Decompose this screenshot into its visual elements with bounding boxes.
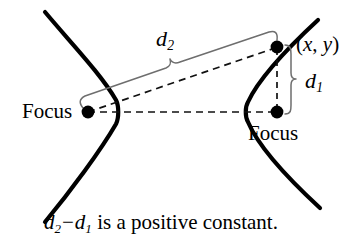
right-focus-dot xyxy=(271,106,284,119)
caption-term-d2: d2 xyxy=(44,210,61,234)
d1-label: d1 xyxy=(305,70,323,92)
hyperbola-figure: Focus Focus (x, y) d2 d1 d2−d1 is a posi… xyxy=(0,0,357,244)
point-on-curve-dot xyxy=(271,41,284,54)
d1-symbol: d xyxy=(305,68,316,93)
coordinate-comma: , xyxy=(312,32,323,56)
figure-caption: d2−d1 is a positive constant. xyxy=(44,212,278,233)
d1-subscript: 1 xyxy=(316,80,323,95)
caption-minus-operator: − xyxy=(61,210,75,234)
d2-label: d2 xyxy=(156,28,174,50)
coordinate-x: x xyxy=(303,32,312,56)
d2-symbol: d xyxy=(156,26,167,51)
caption-d2-symbol: d xyxy=(44,210,55,234)
left-focus-label: Focus xyxy=(22,101,72,122)
caption-tail-text: is a positive constant. xyxy=(92,210,278,234)
right-focus-label: Focus xyxy=(248,123,298,144)
paren-close: ) xyxy=(332,32,339,56)
point-coordinates-label: (x, y) xyxy=(296,34,339,55)
caption-d2-subscript: 2 xyxy=(55,221,62,236)
caption-term-d1: d1 xyxy=(75,210,92,234)
paren-open: ( xyxy=(296,32,303,56)
coordinate-y: y xyxy=(323,32,332,56)
left-focus-dot xyxy=(82,106,95,119)
caption-d1-symbol: d xyxy=(75,210,86,234)
d2-subscript: 2 xyxy=(167,38,174,53)
caption-d1-subscript: 1 xyxy=(85,221,92,236)
